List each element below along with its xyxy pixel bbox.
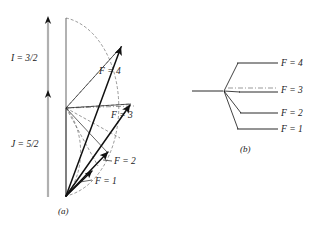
label-vector-f2: F = 2 xyxy=(113,156,136,166)
tip-connector-f4 xyxy=(66,46,122,108)
label-electronic-angular-momentum: J = 5/2 xyxy=(11,139,39,149)
fan-line-f4 xyxy=(224,63,238,91)
fan-line-f2 xyxy=(224,91,241,113)
fan-line-f1 xyxy=(224,91,238,129)
leader-line-f2 xyxy=(103,160,112,161)
label-level-f4: F = 4 xyxy=(280,58,303,68)
label-vector-f3: F = 3 xyxy=(110,110,133,120)
caption-panel-b: (b) xyxy=(240,144,251,154)
panel-a: I = 3/2 J = 5/2 F = 4 F = 3 F = 2 F = 1 … xyxy=(10,16,136,216)
label-level-f3: F = 3 xyxy=(280,85,303,95)
panel-a-scale-axis xyxy=(45,16,51,197)
label-level-f1: F = 1 xyxy=(280,124,303,134)
caption-panel-a: (a) xyxy=(58,206,69,216)
figure-root: I = 3/2 J = 5/2 F = 4 F = 3 F = 2 F = 1 … xyxy=(0,0,320,227)
figure-svg: I = 3/2 J = 5/2 F = 4 F = 3 F = 2 F = 1 … xyxy=(0,0,320,227)
fan-line-f3 xyxy=(224,91,240,92)
label-vector-f1: F = 1 xyxy=(94,176,117,186)
label-level-f2: F = 2 xyxy=(280,108,303,118)
label-vector-f4: F = 4 xyxy=(98,66,121,76)
panel-b: F = 4 F = 3 F = 2 F = 1 (b) xyxy=(192,58,303,154)
label-nuclear-spin: I = 3/2 xyxy=(10,53,38,63)
